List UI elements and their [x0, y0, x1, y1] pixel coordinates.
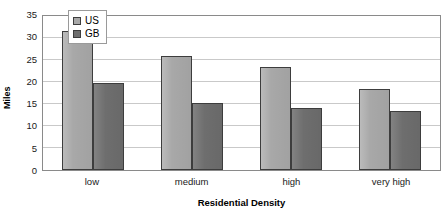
y-axis-tick-labels: 35302520151050 [14, 10, 40, 176]
legend-swatch-icon-us [73, 17, 81, 25]
legend-item-us[interactable]: US [73, 14, 99, 27]
y-tick-label: 35 [26, 10, 37, 20]
y-tick-label: 0 [32, 166, 37, 176]
legend-label-gb: GB [85, 28, 99, 39]
legend-item-gb[interactable]: GB [73, 27, 99, 40]
x-tick-label: high [242, 176, 342, 190]
y-tick-label: 15 [26, 99, 37, 109]
bar-group [242, 16, 341, 170]
legend-label-us: US [85, 15, 99, 26]
bar-us-very-high[interactable] [359, 89, 390, 170]
bar-us-medium[interactable] [161, 56, 192, 170]
x-tick-label: very high [341, 176, 441, 190]
bar-gb-low[interactable] [93, 83, 124, 170]
bar-group [341, 16, 440, 170]
y-axis-title: Miles [0, 78, 14, 118]
bar-gb-medium[interactable] [192, 103, 223, 170]
y-tick-label: 30 [26, 32, 37, 42]
y-tick-label: 5 [32, 144, 37, 154]
legend: US GB [68, 10, 107, 44]
bar-gb-high[interactable] [291, 108, 322, 170]
y-tick-label: 10 [26, 121, 37, 131]
x-tick-label: medium [142, 176, 242, 190]
x-axis-tick-labels: lowmediumhighvery high [42, 176, 441, 190]
bar-group [142, 16, 241, 170]
bar-gb-very-high[interactable] [390, 111, 421, 170]
bar-us-high[interactable] [260, 67, 291, 170]
bar-us-low[interactable] [62, 31, 93, 170]
bar-chart-figure: Miles 35302520151050 US GB lowmediumhigh… [0, 0, 447, 216]
x-axis-title: Residential Density [42, 197, 441, 209]
x-tick-label: low [42, 176, 142, 190]
legend-swatch-icon-gb [73, 30, 81, 38]
y-tick-label: 25 [26, 55, 37, 65]
y-tick-label: 20 [26, 77, 37, 87]
